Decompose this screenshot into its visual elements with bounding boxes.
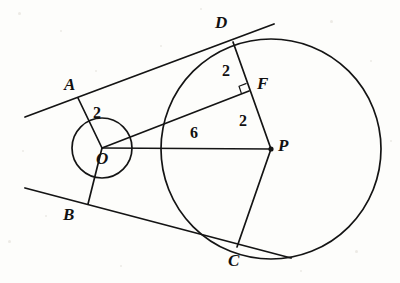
paper-speck: [120, 265, 122, 267]
point-label-f: F: [257, 75, 268, 92]
paper-speck: [18, 12, 21, 15]
point-marker-p: [268, 146, 273, 151]
paper-speck: [60, 30, 62, 32]
point-label-a: A: [64, 76, 75, 93]
upper-tangent-line: [25, 24, 274, 117]
paper-speck: [45, 215, 47, 217]
paper-speck: [8, 240, 11, 243]
paper-speck: [330, 20, 333, 23]
length-label-oa: 2: [93, 105, 101, 121]
point-label-d: D: [215, 14, 227, 31]
paper-speck: [250, 200, 252, 202]
geometry-figure: A B C D F O P 2 2 2 6: [0, 0, 400, 283]
point-label-p: P: [278, 137, 288, 154]
point-label-b: B: [63, 206, 74, 223]
paper-speck: [355, 250, 358, 253]
length-label-fp: 2: [239, 113, 247, 129]
geometry-canvas: [0, 0, 400, 283]
paper-speck: [390, 140, 392, 142]
point-label-o: O: [96, 150, 108, 167]
segment-OF: [102, 91, 249, 148]
paper-speck: [300, 270, 302, 272]
segment-PC: [237, 149, 271, 247]
paper-speck: [95, 70, 97, 72]
paper-speck: [200, 8, 202, 10]
paper-speck: [160, 45, 162, 47]
segment-OP: [102, 148, 271, 149]
paper-speck: [370, 60, 372, 62]
paper-speck: [22, 150, 24, 152]
length-label-op: 6: [190, 125, 198, 141]
point-label-c: C: [228, 252, 239, 269]
length-label-df: 2: [222, 63, 230, 79]
